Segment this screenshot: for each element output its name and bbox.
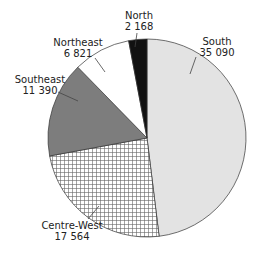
label-southeast: Southeast 11 390 — [8, 74, 72, 96]
slice-south — [147, 39, 246, 236]
label-northeast: Northeast 6 821 — [46, 37, 110, 59]
label-centre-west: Centre-West 17 564 — [34, 220, 110, 242]
label-north: North 2 168 — [118, 10, 160, 32]
label-south: South 35 090 — [192, 36, 242, 58]
